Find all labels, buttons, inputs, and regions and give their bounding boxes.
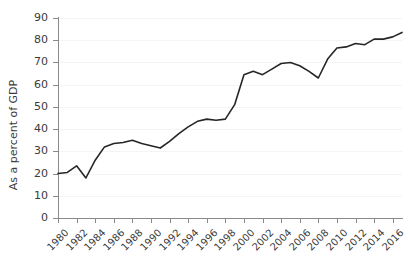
chart-container: As a percent of GDP 0102030405060708090 …	[0, 0, 410, 270]
data-series-line	[0, 0, 410, 270]
